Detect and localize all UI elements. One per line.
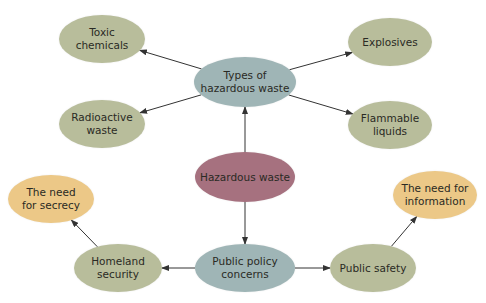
node-need-for-information: The need for information xyxy=(393,171,477,219)
node-label: Homeland security xyxy=(91,255,145,281)
edge-arrow xyxy=(140,95,201,113)
node-toxic-chemicals: Toxic chemicals xyxy=(59,15,145,63)
node-label: Public policy concerns xyxy=(212,255,277,281)
node-label: The need for information xyxy=(402,182,469,208)
node-label: Types of hazardous waste xyxy=(201,69,290,95)
node-types-of-hazardous-waste: Types of hazardous waste xyxy=(194,57,296,107)
node-radioactive-waste: Radioactive waste xyxy=(59,100,145,148)
node-public-policy-concerns: Public policy concerns xyxy=(195,244,295,292)
node-label: Toxic chemicals xyxy=(76,26,129,52)
node-explosives: Explosives xyxy=(348,18,432,66)
node-flammable-liquids: Flammable liquids xyxy=(348,101,432,149)
edge-arrow xyxy=(391,217,416,247)
node-label: Explosives xyxy=(362,36,417,49)
edge-arrow xyxy=(71,220,97,247)
node-homeland-security: Homeland security xyxy=(74,244,162,292)
node-label: Hazardous waste xyxy=(200,171,290,184)
edge-arrow xyxy=(140,50,202,69)
node-label: Public safety xyxy=(340,262,407,275)
node-label: Radioactive waste xyxy=(71,111,132,137)
node-public-safety: Public safety xyxy=(330,244,416,292)
edge-arrow xyxy=(289,52,352,69)
node-hazardous-waste: Hazardous waste xyxy=(195,152,295,202)
edge-arrow xyxy=(289,95,353,114)
node-need-for-secrecy: The need for secrecy xyxy=(8,175,94,223)
node-label: Flammable liquids xyxy=(361,112,419,138)
node-label: The need for secrecy xyxy=(22,186,80,212)
